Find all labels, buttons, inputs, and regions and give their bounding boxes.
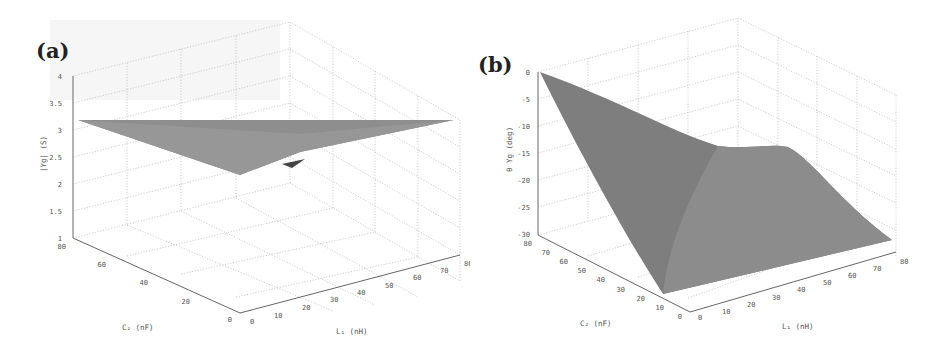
- svg-text:40: 40: [140, 279, 148, 287]
- svg-text:60: 60: [98, 261, 106, 269]
- svg-text:-25: -25: [517, 204, 530, 212]
- svg-text:1: 1: [58, 235, 62, 243]
- x-axis-label-b: L₁ (nH): [782, 322, 814, 331]
- svg-text:20: 20: [302, 304, 310, 312]
- svg-text:40: 40: [797, 286, 805, 294]
- svg-text:1.5: 1.5: [49, 208, 62, 216]
- y-axis-ticks-a: 80 60 40 20 0: [58, 243, 232, 324]
- svg-text:10: 10: [722, 308, 730, 316]
- svg-text:20: 20: [182, 298, 190, 306]
- svg-text:0: 0: [526, 69, 530, 77]
- svg-text:0: 0: [678, 313, 682, 321]
- y-axis-label-b: C₂ (nF): [580, 319, 612, 328]
- svg-text:60: 60: [848, 272, 856, 280]
- svg-text:60: 60: [413, 274, 421, 282]
- svg-text:2.5: 2.5: [49, 154, 62, 162]
- svg-text:50: 50: [823, 279, 831, 287]
- svg-text:-5: -5: [522, 96, 530, 104]
- svg-text:-15: -15: [517, 150, 530, 158]
- svg-text:3: 3: [58, 127, 62, 135]
- panel-label-a: (a): [36, 38, 69, 63]
- chart-panel-a: 4 3.5 3 2.5 2 1.5 1 80 60 40 20 0 0 10 2…: [0, 0, 470, 355]
- svg-text:60: 60: [560, 258, 568, 266]
- svg-text:40: 40: [597, 276, 605, 284]
- svg-text:10: 10: [656, 304, 664, 312]
- svg-text:30: 30: [772, 294, 780, 302]
- svg-text:30: 30: [330, 296, 338, 304]
- surface-plot-a: 4 3.5 3 2.5 2 1.5 1 80 60 40 20 0 0 10 2…: [0, 0, 470, 355]
- svg-text:-20: -20: [517, 177, 530, 185]
- svg-text:20: 20: [747, 301, 755, 309]
- svg-text:80: 80: [58, 243, 66, 251]
- panel-label-b: (b): [478, 52, 513, 77]
- svg-text:30: 30: [617, 286, 625, 294]
- chart-panel-b: 0 -5 -10 -15 -20 -25 -30 80 70 60 50 40 …: [468, 0, 938, 355]
- y-axis-label-a: C₂ (nF): [122, 323, 154, 332]
- svg-text:10: 10: [274, 312, 282, 320]
- svg-text:4: 4: [58, 73, 62, 81]
- svg-text:40: 40: [357, 289, 365, 297]
- svg-text:0: 0: [250, 318, 254, 326]
- svg-text:20: 20: [637, 295, 645, 303]
- svg-text:50: 50: [578, 267, 586, 275]
- svg-text:2: 2: [58, 181, 62, 189]
- z-axis-label-b: θ Yg (deg): [505, 127, 514, 172]
- z-axis-label-a: |Yg| (S): [39, 136, 48, 172]
- svg-text:70: 70: [440, 267, 448, 275]
- svg-text:-10: -10: [517, 123, 530, 131]
- svg-text:80: 80: [524, 240, 532, 248]
- svg-text:3.5: 3.5: [49, 100, 62, 108]
- svg-text:0: 0: [228, 316, 232, 324]
- svg-text:-30: -30: [517, 231, 530, 239]
- x-axis-label-a: L₁ (nH): [336, 327, 368, 336]
- z-axis-ticks-b: 0 -5 -10 -15 -20 -25 -30: [517, 69, 530, 239]
- svg-text:70: 70: [542, 249, 550, 257]
- svg-text:50: 50: [385, 282, 393, 290]
- surface-plot-b: 0 -5 -10 -15 -20 -25 -30 80 70 60 50 40 …: [468, 0, 938, 355]
- svg-text:70: 70: [873, 265, 881, 273]
- svg-text:0: 0: [698, 314, 702, 322]
- svg-text:80: 80: [900, 258, 908, 266]
